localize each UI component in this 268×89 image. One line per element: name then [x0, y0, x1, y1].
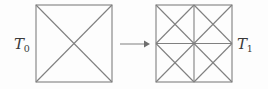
- coarse-mesh-T0: [36, 5, 112, 82]
- arrow-head: [144, 41, 150, 48]
- label-T0: T0: [14, 36, 30, 53]
- mesh-refinement-figure: T0 T1: [0, 0, 268, 89]
- label-T0-subscript: 0: [24, 43, 30, 54]
- label-T1: T1: [237, 36, 253, 53]
- refinement-arrow: [120, 41, 150, 48]
- mesh-diagram-canvas: [0, 0, 268, 89]
- label-T0-symbol: T: [14, 35, 24, 53]
- label-T1-subscript: 1: [247, 43, 253, 54]
- label-T1-symbol: T: [237, 35, 247, 53]
- refined-mesh-T1: [156, 5, 232, 82]
